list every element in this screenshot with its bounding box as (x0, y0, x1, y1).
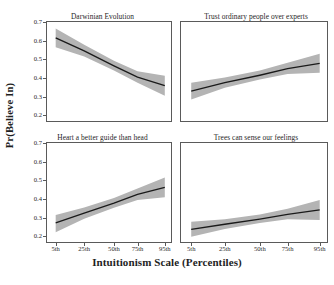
x-tick-mark (191, 243, 192, 246)
confidence-band (191, 200, 319, 237)
y-tick-label: 0.2 (24, 111, 42, 118)
panel-title-4: Trees can sense our feelings (180, 133, 332, 142)
y-tick-mark (43, 41, 46, 42)
y-tick-mark (43, 78, 46, 79)
y-tick-label: 0.4 (24, 195, 42, 202)
figure-canvas: Pr(Believe In) Darwinian Evolution Trust… (0, 0, 334, 285)
y-tick-mark (43, 199, 46, 200)
y-tick-label: 0.6 (24, 158, 42, 165)
y-tick-mark (43, 97, 46, 98)
x-tick-mark (225, 243, 226, 246)
x-tick-mark (56, 243, 57, 246)
y-tick-mark (43, 22, 46, 23)
y-tick-label: 0.4 (24, 74, 42, 81)
x-tick-label: 50th (108, 245, 120, 252)
panel-title-2: Trust ordinary people over experts (180, 12, 332, 21)
y-tick-label: 0.7 (24, 18, 42, 25)
panel-darwinian-evolution (46, 21, 172, 122)
y-tick-label: 0.6 (24, 37, 42, 44)
x-tick-mark (288, 243, 289, 246)
series-plot (47, 143, 171, 242)
y-tick-mark (43, 180, 46, 181)
panel-trust-ordinary-people (180, 21, 328, 122)
series-plot (181, 143, 327, 242)
y-tick-mark (43, 143, 46, 144)
confidence-band (56, 29, 165, 96)
y-tick-mark (43, 162, 46, 163)
x-tick-label: 95th (159, 245, 171, 252)
x-axis-title: Intuitionism Scale (Percentiles) (0, 256, 334, 268)
x-tick-label: 25th (219, 245, 231, 252)
panel-heart-better-guide (46, 142, 172, 243)
y-tick-mark (43, 236, 46, 237)
x-tick-label: 95th (314, 245, 326, 252)
x-tick-label: 5th (187, 245, 195, 252)
y-tick-mark (43, 218, 46, 219)
y-tick-label: 0.2 (24, 232, 42, 239)
panel-title-1: Darwinian Evolution (30, 12, 175, 21)
x-tick-label: 75th (282, 245, 294, 252)
series-plot (47, 22, 171, 121)
x-tick-label: 75th (132, 245, 144, 252)
y-tick-label: 0.5 (24, 176, 42, 183)
x-tick-label: 50th (254, 245, 266, 252)
y-tick-label: 0.7 (24, 139, 42, 146)
x-tick-mark (260, 243, 261, 246)
y-tick-mark (43, 115, 46, 116)
y-tick-label: 0.3 (24, 214, 42, 221)
x-tick-label: 25th (78, 245, 90, 252)
x-tick-mark (114, 243, 115, 246)
x-tick-mark (165, 243, 166, 246)
fit-line (191, 210, 319, 229)
y-tick-label: 0.3 (24, 93, 42, 100)
series-plot (181, 22, 327, 121)
x-tick-mark (138, 243, 139, 246)
x-tick-mark (84, 243, 85, 246)
y-tick-label: 0.5 (24, 55, 42, 62)
y-axis-title: Pr(Believe In) (2, 0, 18, 230)
x-tick-mark (320, 243, 321, 246)
panel-title-3: Heart a better guide than head (30, 133, 175, 142)
y-tick-mark (43, 59, 46, 60)
panel-trees-sense-feelings (180, 142, 328, 243)
x-tick-label: 5th (51, 245, 59, 252)
